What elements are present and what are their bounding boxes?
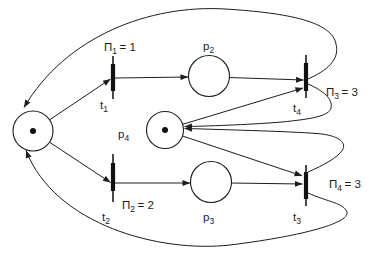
label-t3: t3 (293, 211, 301, 226)
priority-label-t1: Π1= 1 (104, 41, 136, 56)
arc-p3-t3 (231, 183, 303, 184)
priority-label-t4: Π3= 3 (326, 86, 358, 101)
arc-t1-p2 (115, 77, 188, 78)
arc-p1-t2 (50, 142, 111, 182)
label-p2: p2 (203, 40, 214, 55)
arc-t3-p1-feedback (26, 151, 347, 247)
token-p4 (162, 127, 168, 133)
arc-layer (24, 9, 347, 247)
petri-net-diagram: Π1= 1 t1 Π2= 2 t2 Π3= 3 t4 Π4= 3 t3 p2 p… (0, 0, 373, 260)
label-t4: t4 (293, 102, 301, 117)
arc-p2-t4 (229, 78, 304, 81)
place-p3 (191, 162, 232, 203)
label-t2: t2 (102, 211, 110, 226)
priority-label-t3: Π4= 3 (329, 178, 361, 193)
label-p4: p4 (118, 128, 129, 143)
label-p3: p3 (203, 211, 214, 226)
token-p1 (30, 128, 36, 134)
label-layer: Π1= 1 t1 Π2= 2 t2 Π3= 3 t4 Π4= 3 t3 p2 p… (100, 40, 361, 226)
priority-label-t2: Π2= 2 (122, 199, 154, 214)
place-p2 (189, 56, 230, 97)
arc-t4-p1-feedback (24, 9, 337, 108)
petri-net-canvas: Π1= 1 t1 Π2= 2 t2 Π3= 3 t4 Π4= 3 t3 p2 p… (0, 0, 373, 260)
label-t1: t1 (100, 99, 108, 114)
